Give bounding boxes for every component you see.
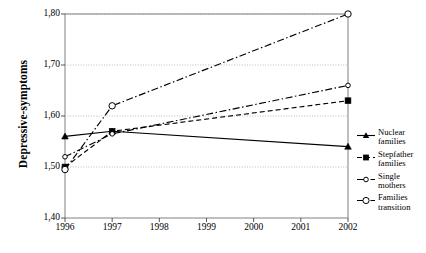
legend-label-1: Stepfatherfamilies xyxy=(378,150,426,169)
legend-item-0: Nuclearfamilies xyxy=(356,128,426,147)
legend-label-2: Singlemothers xyxy=(378,172,426,191)
data-point-2 xyxy=(346,83,351,88)
series-line-2 xyxy=(65,85,348,156)
chart-figure: Depressive-symptoms 1,401,501,601,701,80… xyxy=(0,0,426,253)
data-point-2 xyxy=(63,155,68,160)
data-point-1 xyxy=(345,98,351,104)
chart-legend: NuclearfamiliesStepfatherfamiliesSinglem… xyxy=(356,128,426,215)
legend-marker-0 xyxy=(356,131,376,140)
legend-label-line2: transition xyxy=(378,203,426,212)
legend-label-0: Nuclearfamilies xyxy=(378,128,426,147)
series-line-1 xyxy=(65,101,348,167)
data-point-3 xyxy=(62,166,68,172)
legend-marker-3 xyxy=(356,196,376,205)
legend-marker-2 xyxy=(356,175,376,184)
data-point-2 xyxy=(110,132,115,137)
legend-item-2: Singlemothers xyxy=(356,172,426,191)
legend-label-line2: mothers xyxy=(378,181,426,190)
series-line-0 xyxy=(65,131,348,146)
legend-item-1: Stepfatherfamilies xyxy=(356,150,426,169)
series-line-3 xyxy=(65,14,348,170)
legend-label-3: Familiestransition xyxy=(378,193,426,212)
legend-marker-1 xyxy=(356,153,376,162)
data-point-3 xyxy=(109,103,115,109)
legend-item-3: Familiestransition xyxy=(356,193,426,212)
legend-label-line2: families xyxy=(378,137,426,146)
data-point-3 xyxy=(345,11,351,17)
legend-label-line2: families xyxy=(378,159,426,168)
